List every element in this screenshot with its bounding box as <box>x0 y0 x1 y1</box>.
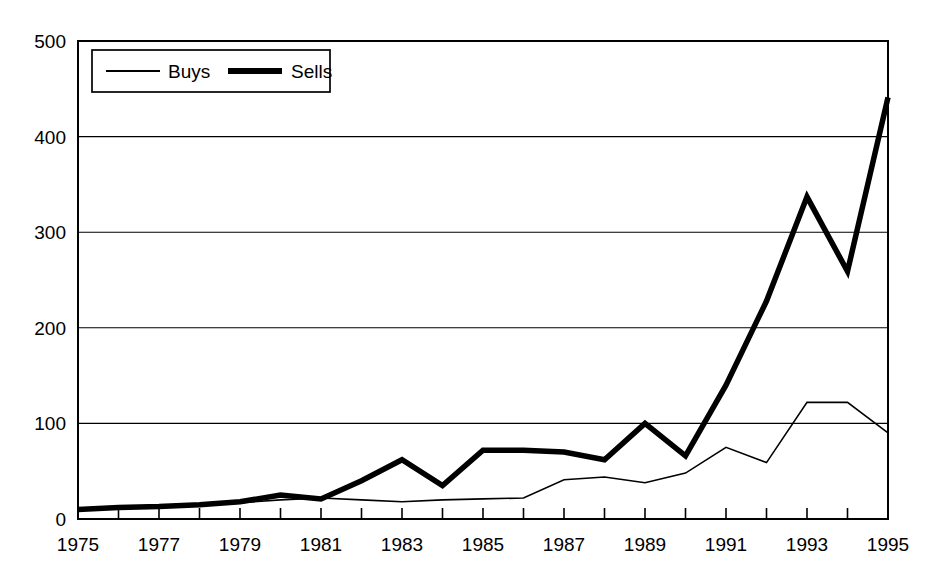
x-tick-label: 1987 <box>543 534 585 555</box>
x-tick-label: 1983 <box>381 534 423 555</box>
series-line-sells <box>78 97 888 509</box>
legend-label-sells: Sells <box>291 61 332 82</box>
chart-container: 1975197719791981198319851987198919911993… <box>0 0 938 578</box>
axis-frame <box>78 41 888 519</box>
gridlines <box>78 137 888 424</box>
x-tick-label: 1975 <box>57 534 99 555</box>
y-tick-label: 0 <box>55 509 66 530</box>
x-tick-label: 1981 <box>300 534 342 555</box>
x-tick-label: 1979 <box>219 534 261 555</box>
x-tick-label: 1993 <box>786 534 828 555</box>
x-tick-label: 1989 <box>624 534 666 555</box>
chart-legend: Buys Sells <box>92 50 332 92</box>
y-tick-label: 200 <box>34 318 66 339</box>
legend-label-buys: Buys <box>168 61 210 82</box>
series-line-buys <box>78 402 888 509</box>
x-tick-label: 1995 <box>867 534 909 555</box>
line-chart: 1975197719791981198319851987198919911993… <box>0 0 938 578</box>
y-tick-label: 500 <box>34 31 66 52</box>
x-axis-tick-labels: 1975197719791981198319851987198919911993… <box>57 534 909 555</box>
y-tick-label: 300 <box>34 222 66 243</box>
y-tick-label: 400 <box>34 127 66 148</box>
x-tick-label: 1985 <box>462 534 504 555</box>
y-axis-tick-labels: 0100200300400500 <box>34 31 78 530</box>
x-tick-label: 1977 <box>138 534 180 555</box>
series-lines <box>78 97 888 509</box>
x-axis-ticks <box>78 508 888 519</box>
y-tick-label: 100 <box>34 413 66 434</box>
x-tick-label: 1991 <box>705 534 747 555</box>
